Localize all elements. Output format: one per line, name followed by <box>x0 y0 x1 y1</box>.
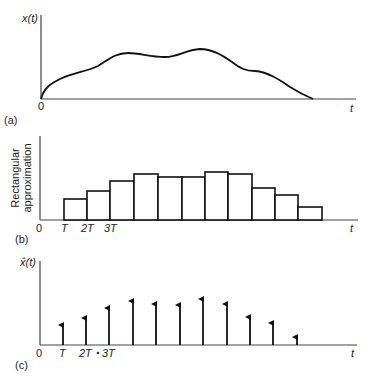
x-axis-label: t <box>350 222 354 234</box>
panel-caption: (c) <box>15 359 28 371</box>
bar <box>64 199 87 220</box>
bar <box>205 172 228 220</box>
bar <box>252 188 275 220</box>
bar <box>298 207 322 220</box>
y-axis-label-line2: approximation <box>21 143 33 212</box>
tick-label: T <box>59 347 67 359</box>
bar <box>275 195 298 220</box>
origin-label: 0 <box>36 347 42 359</box>
panel-caption: (b) <box>15 233 28 245</box>
signal-curve <box>41 49 313 99</box>
bar <box>182 177 205 220</box>
tick-label: T <box>61 222 69 234</box>
bar <box>134 174 158 220</box>
panel-caption: (a) <box>4 114 17 126</box>
bar <box>110 181 134 220</box>
tick-label: 2T <box>80 222 95 234</box>
y-axis-label: Rectangular approximation <box>9 143 33 212</box>
panel-b: Rectangular approximation 0 T 2T 3T t (b… <box>9 136 358 245</box>
y-axis-label: x(t) <box>21 12 38 24</box>
impulses <box>63 299 297 345</box>
bar <box>87 191 110 220</box>
panel-a: x(t) 0 t (a) <box>4 12 356 126</box>
origin-label: 0 <box>38 100 44 112</box>
x-axis-label: t <box>350 102 354 114</box>
figure: x(t) 0 t (a) Rectangular approximation 0… <box>0 0 370 382</box>
tick-label: 3T <box>102 347 116 359</box>
origin-label: 0 <box>36 222 42 234</box>
y-axis-label-line1: Rectangular <box>9 148 21 208</box>
y-axis-label: x̂(t) <box>19 256 36 268</box>
bars <box>64 172 322 220</box>
panel-c: x̂(t) 0 T 2T 3T t (c) <box>15 256 357 371</box>
dot-mark <box>97 352 100 355</box>
x-axis-label: t <box>351 347 355 359</box>
tick-label: 2T <box>78 347 93 359</box>
bar <box>158 177 182 220</box>
bar <box>228 174 252 220</box>
tick-label: 3T <box>104 222 118 234</box>
